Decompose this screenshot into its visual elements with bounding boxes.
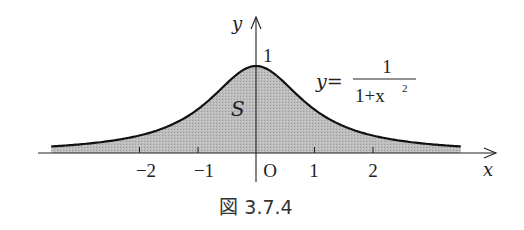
figure-canvas: y x 1 −2 −1 O 1 2 S y= 1 1+x 2 図 3.7.4: [0, 0, 524, 230]
area-label-s: S: [231, 97, 245, 121]
equation-label: y= 1 1+x 2: [315, 56, 416, 106]
y-axis-label: y: [231, 13, 243, 34]
svg-text:y=: y=: [315, 70, 343, 92]
origin-label: O: [263, 160, 277, 181]
x-tick-label-minus-2: −2: [136, 160, 156, 181]
x-tick-label-minus-1: −1: [194, 160, 214, 181]
figure-caption: 図 3.7.4: [219, 196, 292, 218]
svg-text:2: 2: [402, 82, 408, 94]
x-tick-label-2: 2: [368, 160, 378, 181]
x-axis-label: x: [483, 159, 493, 180]
x-tick-label-1: 1: [309, 160, 319, 181]
y-tick-label-1: 1: [263, 45, 273, 66]
svg-text:1+x: 1+x: [355, 85, 385, 106]
svg-text:1: 1: [382, 56, 392, 77]
